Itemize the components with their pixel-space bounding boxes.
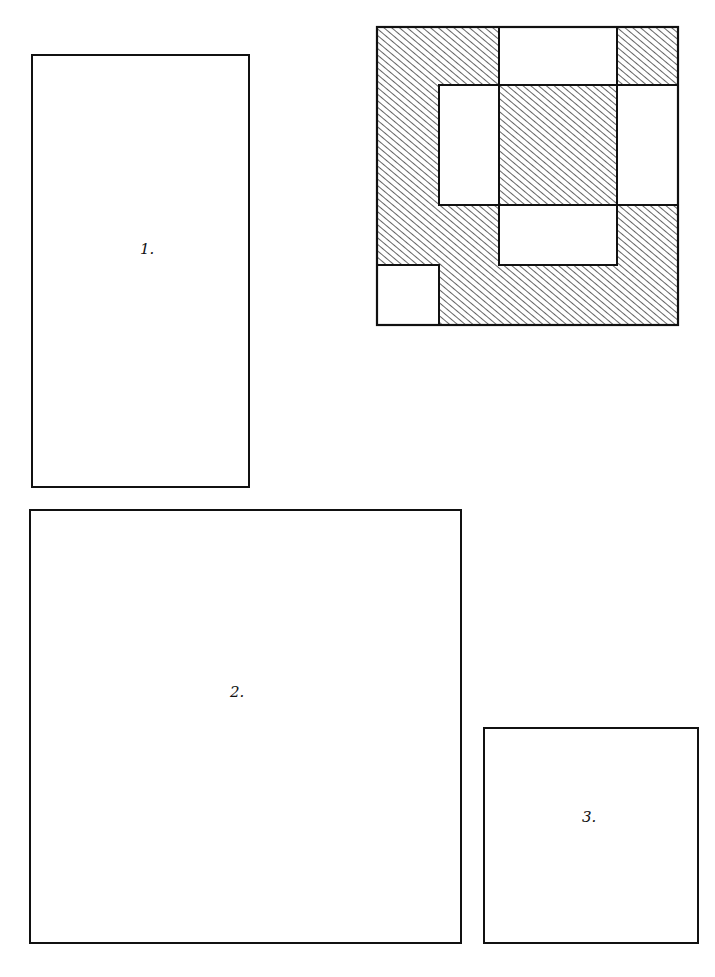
white-lower-center	[499, 205, 617, 265]
white-middle-left	[439, 85, 499, 205]
white-middle-right	[617, 85, 678, 205]
white-top-center	[499, 27, 617, 85]
white-bottom-left-corner	[377, 265, 439, 325]
quilt-block-diagram	[0, 0, 715, 977]
